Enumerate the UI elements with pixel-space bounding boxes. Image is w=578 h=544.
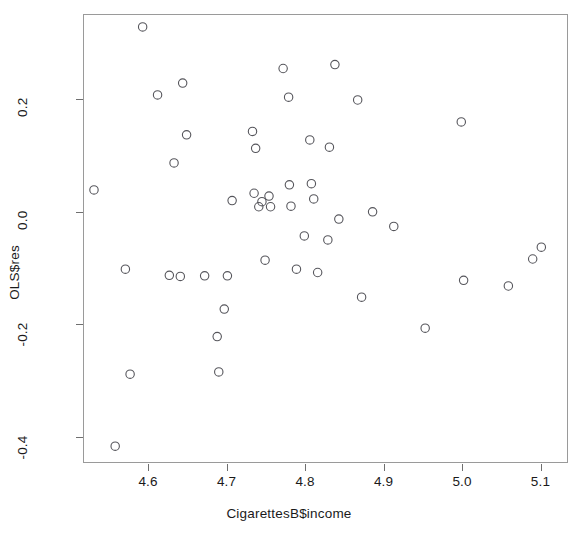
y-tick — [76, 99, 83, 100]
x-tick-label: 4.7 — [217, 474, 236, 489]
y-tick — [76, 324, 83, 325]
x-tick-label: 4.9 — [374, 474, 393, 489]
x-tick — [462, 464, 463, 471]
x-tick-label: 4.6 — [138, 474, 157, 489]
x-tick — [541, 464, 542, 471]
y-axis-title-text: OLS$res — [7, 245, 22, 300]
y-tick — [76, 212, 83, 213]
x-tick — [305, 464, 306, 471]
x-tick — [227, 464, 228, 471]
y-axis-title: OLS$res — [4, 0, 24, 544]
x-tick-label: 5.0 — [452, 474, 471, 489]
x-tick-label: 5.1 — [531, 474, 550, 489]
scatter-plot: 4.64.74.84.95.05.1 0.20.0-0.2-0.4 Cigare… — [0, 0, 578, 544]
plot-frame — [83, 14, 568, 463]
x-tick-label: 4.8 — [295, 474, 314, 489]
x-axis-title: CigarettesB$income — [0, 506, 578, 521]
x-tick — [148, 464, 149, 471]
y-tick — [76, 437, 83, 438]
x-tick — [384, 464, 385, 471]
